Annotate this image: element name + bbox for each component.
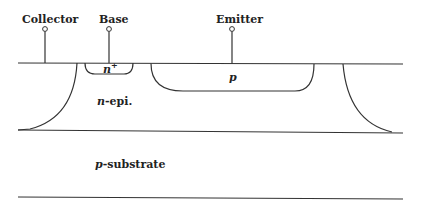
transistor-cross-section-diagram: Collector Base Emitter n+ p n-epi. p-sub… — [0, 0, 421, 204]
base-label: Base — [99, 13, 129, 26]
substrate-bottom-line — [18, 197, 403, 199]
emitter-contact-icon — [230, 27, 235, 32]
collector-contact-icon — [43, 27, 48, 32]
emitter-label: Emitter — [216, 13, 263, 26]
right-isolation-boundary — [343, 64, 392, 132]
emitter-terminal: Emitter — [216, 13, 263, 64]
n-epi-label: n-epi. — [97, 95, 132, 108]
base-terminal: Base — [99, 13, 129, 63]
surface-line — [18, 63, 403, 64]
epi-substrate-interface — [18, 130, 403, 133]
p-region-label: p — [229, 71, 237, 84]
collector-label: Collector — [22, 13, 79, 26]
base-contact-icon — [107, 27, 112, 32]
p-substrate-label: p-substrate — [95, 158, 165, 171]
collector-terminal: Collector — [22, 13, 79, 63]
left-isolation-boundary — [18, 63, 77, 130]
